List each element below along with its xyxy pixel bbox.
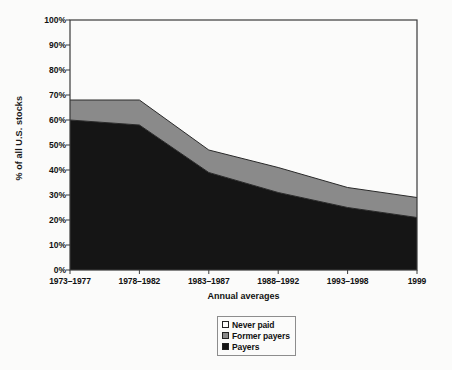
legend-label: Former payers [232, 331, 290, 341]
chart-legend: Never paidFormer payersPayers [217, 316, 296, 356]
y-tick-label: 30% [32, 190, 66, 200]
stacked-area-chart: % of all U.S. stocks 0%10%20%30%40%50%60… [0, 0, 452, 370]
chart-plot-area [0, 0, 452, 370]
legend-item[interactable]: Payers [222, 341, 290, 352]
y-tick-label: 50% [32, 140, 66, 150]
y-tick-label: 70% [32, 90, 66, 100]
legend-swatch-icon [222, 321, 229, 328]
y-tick-label: 20% [32, 215, 66, 225]
y-tick-label: 10% [32, 240, 66, 250]
y-tick-label: 60% [32, 115, 66, 125]
x-axis-title: Annual averages [70, 291, 417, 301]
y-tick-label: 90% [32, 40, 66, 50]
x-tick-label: 1978–1982 [119, 276, 161, 286]
y-tick-label: 0% [32, 265, 66, 275]
x-tick-label: 1999 [408, 276, 427, 286]
legend-swatch-icon [222, 343, 229, 350]
x-tick-label: 1988–1992 [257, 276, 299, 286]
legend-item[interactable]: Former payers [222, 330, 290, 341]
x-tick-label: 1993–1998 [327, 276, 369, 286]
legend-label: Never paid [232, 320, 274, 330]
y-axis-tick-labels: 0%10%20%30%40%50%60%70%80%90%100% [28, 0, 66, 370]
x-tick-label: 1983–1987 [188, 276, 230, 286]
y-tick-label: 40% [32, 165, 66, 175]
legend-item[interactable]: Never paid [222, 319, 290, 330]
legend-swatch-icon [222, 332, 229, 339]
x-tick-label: 1973–1977 [49, 276, 91, 286]
y-tick-label: 100% [32, 15, 66, 25]
y-tick-label: 80% [32, 65, 66, 75]
legend-label: Payers [232, 342, 259, 352]
